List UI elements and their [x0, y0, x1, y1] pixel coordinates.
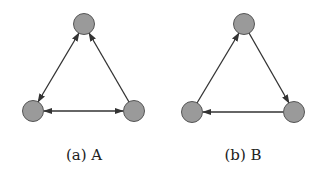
caption-a: (a) A: [66, 146, 102, 164]
caption-b: (b) B: [224, 146, 261, 164]
edge-top-bottom-left: [38, 33, 79, 102]
node-bottom-left: [23, 101, 44, 122]
node-bottom-right: [284, 102, 305, 123]
figure-canvas: (a) A (b) B: [0, 0, 323, 169]
edge-top-to-bottom-right: [249, 33, 289, 103]
edge-bottom-left-to-top: [197, 33, 239, 103]
node-bottom-left: [182, 102, 203, 123]
panel-a: (a) A: [23, 14, 145, 165]
node-top: [74, 14, 95, 35]
panel-b: (b) B: [182, 14, 305, 165]
edge-top-bottom-right: [89, 33, 129, 102]
node-bottom-right: [124, 101, 145, 122]
node-top: [234, 14, 255, 35]
